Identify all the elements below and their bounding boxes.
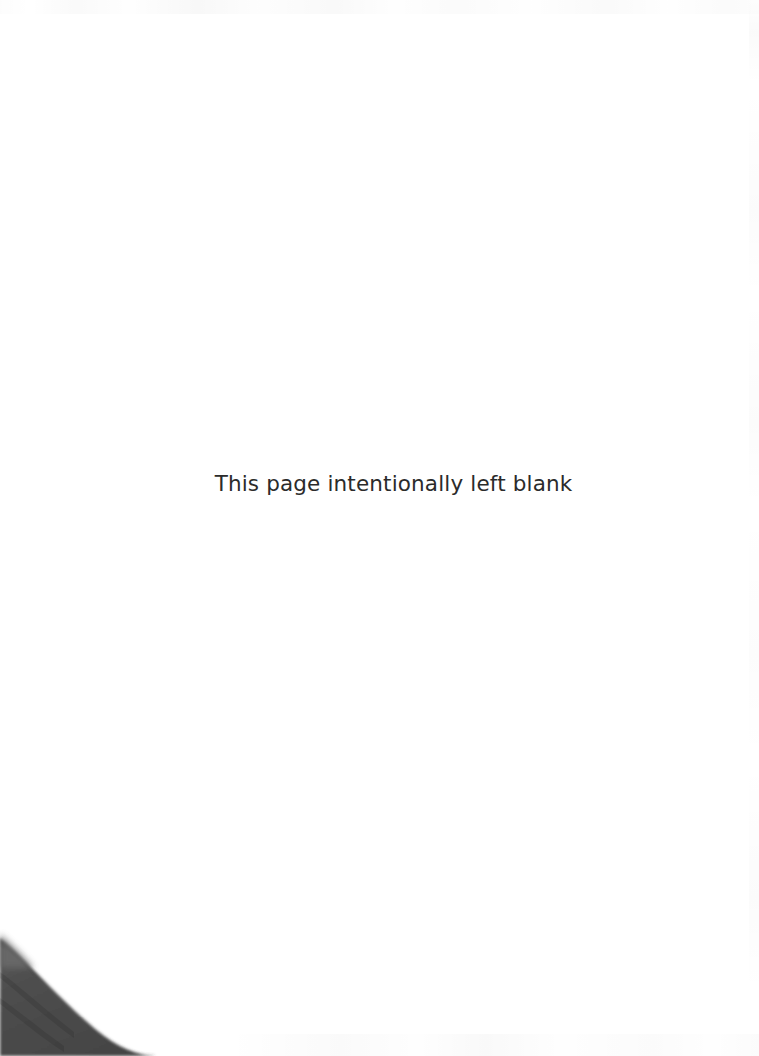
scan-noise-right-band <box>749 0 759 1056</box>
scan-noise-top-band <box>0 0 759 14</box>
book-edge-shadow-icon <box>0 926 240 1056</box>
book-edge-shadow-shape <box>0 926 240 1056</box>
scanned-page: This page intentionally left blank <box>0 0 759 1056</box>
page-notice: This page intentionally left blank <box>0 470 759 498</box>
scan-noise-bottom-band <box>0 1034 759 1056</box>
page-notice-text: This page intentionally left blank <box>215 470 573 498</box>
